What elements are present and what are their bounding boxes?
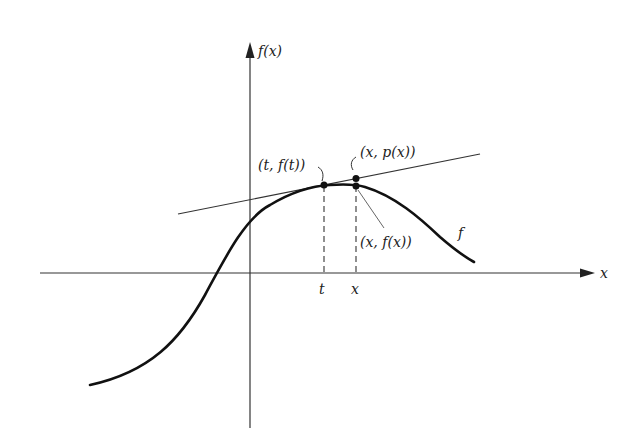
y-axis-arrow-icon xyxy=(246,42,255,58)
x-axis-arrow-icon xyxy=(580,269,595,278)
tick-label-t: t xyxy=(319,281,325,297)
point-x-fx xyxy=(353,183,360,190)
tick-label-x: x xyxy=(351,281,359,297)
x-axis-label: x xyxy=(600,265,608,281)
function-curve xyxy=(90,184,474,385)
diagram-canvas: x f(x) f t x (t, f(t)) (x, p(x)) (x, f(x… xyxy=(0,0,636,444)
y-axis-label: f(x) xyxy=(257,43,282,59)
leader-x-fx xyxy=(358,190,384,228)
label-t-ft: (t, f(t)) xyxy=(258,157,305,173)
x-axis xyxy=(40,269,595,278)
point-x-px xyxy=(353,175,360,182)
label-x-px: (x, p(x)) xyxy=(360,144,416,160)
leader-t-ft xyxy=(318,167,323,181)
point-t-ft xyxy=(321,182,328,189)
leader-x-px xyxy=(351,157,356,170)
curve-label: f xyxy=(457,225,466,241)
y-axis xyxy=(246,42,255,428)
label-x-fx: (x, f(x)) xyxy=(360,234,412,250)
